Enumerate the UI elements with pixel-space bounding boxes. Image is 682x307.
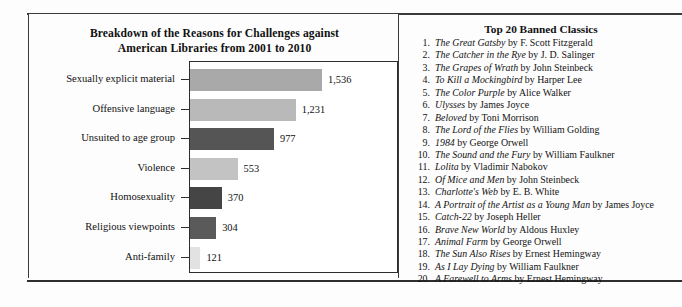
chart-title-line-2: American Libraries from 2001 to 2010 xyxy=(37,42,392,57)
book-author: by John Steinbeck xyxy=(518,62,593,73)
bar xyxy=(190,128,274,150)
book-title: The Sun Also Rises xyxy=(435,248,510,259)
chart-title-line-1: Breakdown of the Reasons for Challenges … xyxy=(37,27,392,42)
bar-value-label: 1,231 xyxy=(302,103,325,117)
list-item: 11.Lolita by Vladimir Nabokov xyxy=(410,161,682,173)
list-item: 1.The Great Gatsby by F. Scott Fitzgeral… xyxy=(410,37,682,49)
list-item-number: 7. xyxy=(410,112,430,124)
book-title: Lolita xyxy=(435,161,459,172)
list-item-number: 1. xyxy=(410,37,430,49)
list-item: 4.To Kill a Mockingbird by Harper Lee xyxy=(410,74,682,86)
list-item: 14.A Portrait of the Artist as a Young M… xyxy=(410,199,682,211)
axis-tick xyxy=(181,109,189,110)
list-item-text: Lolita by Vladimir Nabokov xyxy=(435,161,548,173)
list-item-number: 18. xyxy=(410,248,430,260)
book-title: As I Lay Dying xyxy=(435,261,495,272)
bar xyxy=(190,247,200,269)
book-title: A Farewell to Arms xyxy=(435,273,512,284)
list-item-number: 12. xyxy=(410,174,430,186)
book-author: by Ernest Hemingway xyxy=(510,248,601,259)
list-item: 6.Ulysses by James Joyce xyxy=(410,99,682,111)
list-item-number: 17. xyxy=(410,236,430,248)
list-item-number: 11. xyxy=(410,161,430,173)
bars-layer: 1,5361,231977553370304121 xyxy=(190,62,397,272)
book-author: by George Orwell xyxy=(488,236,562,247)
category-label: Homosexuality xyxy=(23,190,175,204)
axis-tick xyxy=(181,197,189,198)
book-author: by Aldous Huxley xyxy=(505,224,579,235)
list-heading: Top 20 Banned Classics xyxy=(410,22,672,36)
bar xyxy=(190,187,222,209)
axis-tick xyxy=(181,227,189,228)
bar-value-label: 370 xyxy=(228,191,244,205)
book-author: by James Joyce xyxy=(465,99,529,110)
bar-value-label: 553 xyxy=(244,162,260,176)
list-item-text: The Lord of the Flies by William Golding xyxy=(435,124,599,136)
list-item-text: Of Mice and Men by John Steinbeck xyxy=(435,174,579,186)
list-item-text: As I Lay Dying by William Faulkner xyxy=(435,261,579,273)
list-item: 12.Of Mice and Men by John Steinbeck xyxy=(410,174,682,186)
bar-chart-panel: Breakdown of the Reasons for Challenges … xyxy=(28,14,399,278)
book-author: by Harper Lee xyxy=(522,74,582,85)
list-item-number: 4. xyxy=(410,74,430,86)
book-author: by F. Scott Fitzgerald xyxy=(505,37,592,48)
bar xyxy=(190,69,322,91)
book-title: The Great Gatsby xyxy=(435,37,505,48)
book-title: A Portrait of the Artist as a Young Man xyxy=(435,199,590,210)
list-item-number: 10. xyxy=(410,149,430,161)
book-title: Animal Farm xyxy=(435,236,488,247)
banned-books-list: 1.The Great Gatsby by F. Scott Fitzgeral… xyxy=(410,37,682,286)
list-item-number: 2. xyxy=(410,49,430,61)
list-item-text: Brave New World by Aldous Huxley xyxy=(435,224,579,236)
category-label: Sexually explicit material xyxy=(23,72,175,86)
book-author: by Joseph Heller xyxy=(472,211,541,222)
banned-classics-panel: Top 20 Banned Classics 1.The Great Gatsb… xyxy=(410,20,682,276)
book-author: by Alice Walker xyxy=(505,87,571,98)
list-item-text: A Portrait of the Artist as a Young Man … xyxy=(435,199,654,211)
list-item: 3.The Grapes of Wrath by John Steinbeck xyxy=(410,62,682,74)
list-item-text: To Kill a Mockingbird by Harper Lee xyxy=(435,74,582,86)
list-item-number: 5. xyxy=(410,87,430,99)
list-item: 10.The Sound and the Fury by William Fau… xyxy=(410,149,682,161)
list-item: 8.The Lord of the Flies by William Goldi… xyxy=(410,124,682,136)
category-label: Offensive language xyxy=(23,102,175,116)
book-title: Beloved xyxy=(435,112,467,123)
bar-value-label: 1,536 xyxy=(328,73,351,87)
bar xyxy=(190,99,296,121)
list-item-text: Ulysses by James Joyce xyxy=(435,99,529,111)
list-item-text: The Great Gatsby by F. Scott Fitzgerald xyxy=(435,37,593,49)
book-title: The Lord of the Flies xyxy=(435,124,518,135)
book-author: by William Faulkner xyxy=(530,149,614,160)
book-title: Brave New World xyxy=(435,224,505,235)
book-author: by E. B. White xyxy=(498,186,559,197)
axis-tick xyxy=(181,257,189,258)
list-item: 5.The Color Purple by Alice Walker xyxy=(410,87,682,99)
figure-root: Breakdown of the Reasons for Challenges … xyxy=(0,0,682,307)
bar-value-label: 121 xyxy=(206,251,222,265)
plot-area: 1,5361,231977553370304121 xyxy=(189,61,398,273)
book-author: by William Golding xyxy=(518,124,599,135)
bar xyxy=(190,217,216,239)
book-title: Of Mice and Men xyxy=(435,174,504,185)
category-label: Unsuited to age group xyxy=(23,131,175,145)
list-item: 13.Charlotte's Web by E. B. White xyxy=(410,186,682,198)
list-item-number: 15. xyxy=(410,211,430,223)
book-author: by Ernest Hemingway xyxy=(512,273,603,284)
list-item-number: 16. xyxy=(410,224,430,236)
book-author: by James Joyce xyxy=(590,199,654,210)
chart-title: Breakdown of the Reasons for Challenges … xyxy=(37,27,392,56)
list-item-text: Catch-22 by Joseph Heller xyxy=(435,211,541,223)
list-item: 16.Brave New World by Aldous Huxley xyxy=(410,224,682,236)
category-label: Anti-family xyxy=(23,250,175,264)
list-item-text: Beloved by Toni Morrison xyxy=(435,112,539,124)
category-label: Religious viewpoints xyxy=(23,220,175,234)
list-item-text: The Sun Also Rises by Ernest Hemingway xyxy=(435,248,601,260)
list-item: 9.1984 by George Orwell xyxy=(410,137,682,149)
list-item-text: The Color Purple by Alice Walker xyxy=(435,87,571,99)
list-item: 2.The Catcher in the Rye by J. D. Saling… xyxy=(410,49,682,61)
book-author: by William Faulkner xyxy=(495,261,579,272)
book-author: by George Orwell xyxy=(455,137,529,148)
list-item: 7.Beloved by Toni Morrison xyxy=(410,112,682,124)
list-item: 19.As I Lay Dying by William Faulkner xyxy=(410,261,682,273)
list-item-text: The Catcher in the Rye by J. D. Salinger xyxy=(435,49,594,61)
